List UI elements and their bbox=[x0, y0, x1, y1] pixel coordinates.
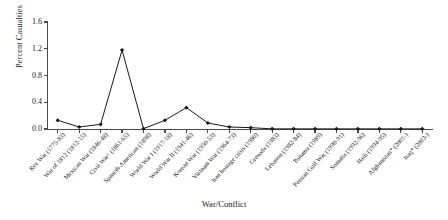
category-label-text: Rev War (1775-83) bbox=[27, 131, 66, 172]
data-point-marker bbox=[77, 125, 81, 129]
series-polyline bbox=[58, 50, 423, 129]
x-axis-title: War/Conflict bbox=[0, 199, 448, 209]
y-axis-tick-label: 1.6 bbox=[22, 18, 42, 26]
y-axis-tick-label: 0.0 bbox=[22, 125, 42, 133]
data-point-marker bbox=[227, 125, 231, 129]
data-point-marker bbox=[120, 48, 124, 52]
y-axis-tick-label: 1.2 bbox=[22, 45, 42, 53]
category-label-text: Civil War^ (1861-65) bbox=[88, 131, 131, 176]
data-point-marker bbox=[56, 118, 60, 122]
y-axis-tick-label: 0.8 bbox=[22, 72, 42, 80]
chart-container: Percent Casualties 0.00.40.81.21.6 Rev W… bbox=[0, 0, 448, 220]
x-axis-category-labels: Rev War (1775-83)War of 1812 (1812-15)Me… bbox=[47, 131, 433, 193]
y-axis-tick-label: 0.4 bbox=[22, 98, 42, 106]
